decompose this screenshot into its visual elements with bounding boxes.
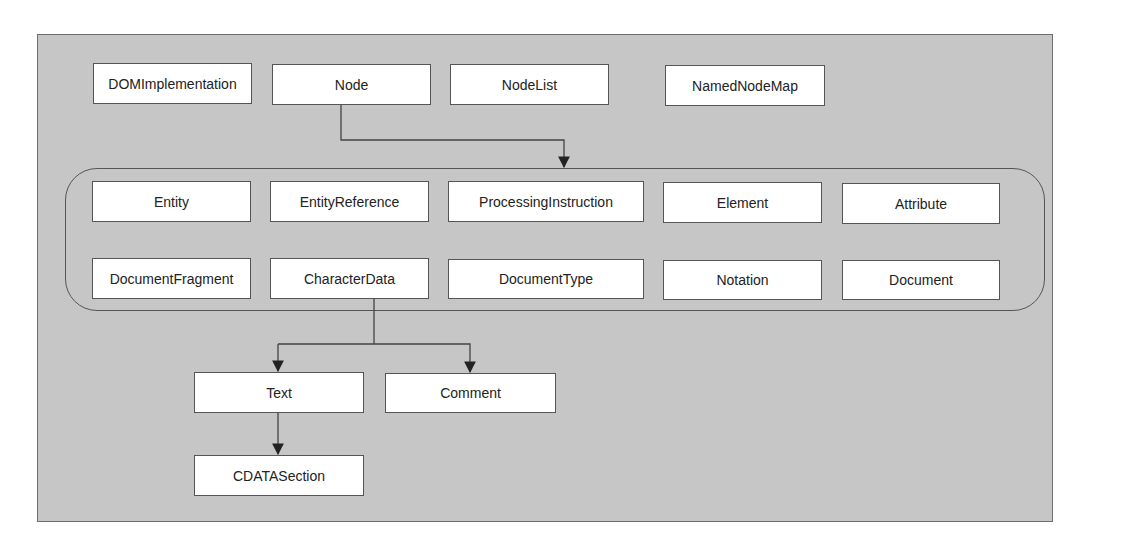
connector-lines <box>0 0 1127 556</box>
edge-node-to-group <box>341 105 564 167</box>
edge-characterdata-to-comment <box>374 344 470 372</box>
edge-characterdata-to-text <box>278 344 374 371</box>
